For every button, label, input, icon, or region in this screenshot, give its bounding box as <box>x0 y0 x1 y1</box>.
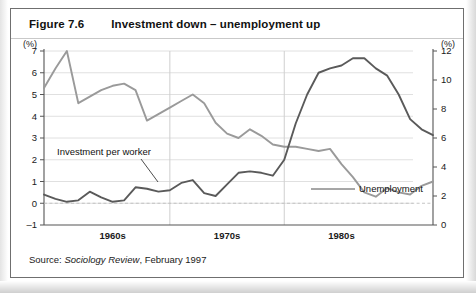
left-tick-label: –1 <box>26 219 37 230</box>
left-tick-label: 6 <box>32 67 37 78</box>
source-date: , February 1997 <box>139 254 206 265</box>
line-chart: –101234567(%)024681012(%)1960s1970s1980s… <box>11 39 465 243</box>
source-note: Source: Sociology Review, February 1997 <box>29 254 206 265</box>
left-axis-unit: (%) <box>23 39 37 49</box>
right-tick-label: 0 <box>441 219 446 230</box>
source-publication: Sociology Review <box>64 254 139 265</box>
figure-box: Figure 7.6 Investment down – unemploymen… <box>10 8 464 278</box>
right-axis-unit: (%) <box>441 39 455 49</box>
figure-title-row: Figure 7.6 Investment down – unemploymen… <box>11 9 463 39</box>
left-tick-label: 3 <box>32 132 37 143</box>
source-prefix: Source: <box>29 254 62 265</box>
leader-line-investment <box>141 159 158 182</box>
left-tick-label: 4 <box>32 111 37 122</box>
series-line-unemployment <box>44 58 433 202</box>
series-annotations: Investment per workerUnemployment <box>57 146 423 194</box>
grid-lines <box>44 51 413 203</box>
x-axis-label: 1960s <box>99 230 125 241</box>
axis-ticks: –101234567(%)024681012(%)1960s1970s1980s <box>23 39 455 241</box>
page-shade-bottom <box>0 281 476 293</box>
right-tick-label: 10 <box>441 74 452 85</box>
left-tick-label: 0 <box>32 198 37 209</box>
figure-number: Figure 7.6 <box>29 18 84 30</box>
left-tick-label: 5 <box>32 89 37 100</box>
right-tick-label: 6 <box>441 132 446 143</box>
page-shade-right <box>466 0 476 293</box>
left-tick-label: 2 <box>32 154 37 165</box>
x-axis-label: 1970s <box>214 230 240 241</box>
page-title: Investment down – unemployment up <box>111 18 320 30</box>
annotation-unemployment: Unemployment <box>359 183 423 194</box>
left-tick-label: 1 <box>32 176 37 187</box>
annotation-investment: Investment per worker <box>57 146 151 157</box>
right-tick-label: 2 <box>441 190 446 201</box>
page-shade-left <box>0 0 8 293</box>
chart-area: –101234567(%)024681012(%)1960s1970s1980s… <box>11 39 465 243</box>
x-axis-label: 1980s <box>328 230 354 241</box>
right-tick-label: 8 <box>441 103 446 114</box>
right-tick-label: 4 <box>441 161 446 172</box>
data-series <box>44 51 433 202</box>
